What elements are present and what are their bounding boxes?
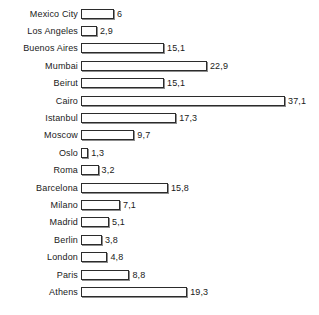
- bar-area: 19,3: [78, 283, 319, 300]
- bar-area: 3,2: [78, 162, 319, 179]
- bar: [81, 287, 187, 297]
- bar: [81, 165, 99, 175]
- category-label: Istanbul: [0, 113, 78, 123]
- bar-value-label: 9,7: [137, 130, 150, 140]
- bar-area: 22,9: [78, 57, 319, 74]
- bar-value-label: 4,8: [110, 252, 123, 262]
- bar: [81, 217, 109, 227]
- bar-area: 15,1: [78, 40, 319, 57]
- bar-area: 9,7: [78, 127, 319, 144]
- bar: [81, 9, 114, 19]
- category-label: Mumbai: [0, 61, 78, 71]
- bar-value-label: 15,1: [167, 43, 185, 53]
- bar-area: 15,8: [78, 179, 319, 196]
- category-label: Mexico City: [0, 9, 78, 19]
- category-label: Cairo: [0, 96, 78, 106]
- bar-row: Mumbai22,9: [0, 57, 319, 74]
- bar-row: Madrid5,1: [0, 214, 319, 231]
- category-label: Athens: [0, 287, 78, 297]
- bar: [81, 113, 176, 123]
- category-label: Los Angeles: [0, 26, 78, 36]
- bar-value-label: 7,1: [123, 200, 136, 210]
- bar: [81, 252, 107, 262]
- bar-row: Moscow9,7: [0, 127, 319, 144]
- bar-value-label: 15,8: [171, 183, 189, 193]
- category-label: Milano: [0, 200, 78, 210]
- bar-row: London4,8: [0, 248, 319, 265]
- bar-row: Berlin3,8: [0, 231, 319, 248]
- bar-area: 3,8: [78, 231, 319, 248]
- category-label: Beirut: [0, 78, 78, 88]
- bar-row: Mexico City6: [0, 5, 319, 22]
- bar: [81, 235, 102, 245]
- bar-value-label: 22,9: [210, 61, 228, 71]
- bar-row: Athens19,3: [0, 283, 319, 300]
- bar: [81, 96, 285, 106]
- category-label: Moscow: [0, 130, 78, 140]
- bar-value-label: 17,3: [179, 113, 197, 123]
- bar-value-label: 37,1: [288, 96, 306, 106]
- bar-area: 17,3: [78, 109, 319, 126]
- bar-row: Oslo1,3: [0, 144, 319, 161]
- bar-area: 37,1: [78, 92, 319, 109]
- bar-area: 4,8: [78, 248, 319, 265]
- bar-value-label: 15,1: [167, 78, 185, 88]
- bar: [81, 148, 88, 158]
- bar-row: Cairo37,1: [0, 92, 319, 109]
- bar: [81, 61, 207, 71]
- bar-value-label: 6: [117, 9, 122, 19]
- bar: [81, 183, 168, 193]
- bar-value-label: 3,8: [105, 235, 118, 245]
- category-label: London: [0, 252, 78, 262]
- bar-area: 1,3: [78, 144, 319, 161]
- bar: [81, 43, 164, 53]
- bar-row: Roma3,2: [0, 162, 319, 179]
- bar-row: Milano7,1: [0, 196, 319, 213]
- bar-row: Istanbul17,3: [0, 109, 319, 126]
- bar-value-label: 8,8: [132, 270, 145, 280]
- bar-area: 5,1: [78, 214, 319, 231]
- bar-value-label: 3,2: [102, 165, 115, 175]
- bar-value-label: 19,3: [190, 287, 208, 297]
- category-label: Oslo: [0, 148, 78, 158]
- bar-area: 7,1: [78, 196, 319, 213]
- category-label: Madrid: [0, 217, 78, 227]
- bar: [81, 270, 129, 280]
- bar-area: 15,1: [78, 75, 319, 92]
- bar-value-label: 5,1: [112, 217, 125, 227]
- bar-value-label: 1,3: [91, 148, 104, 158]
- bar: [81, 200, 120, 210]
- bar-row: Los Angeles2,9: [0, 22, 319, 39]
- bar-row: Beirut15,1: [0, 75, 319, 92]
- bar-chart: Mexico City6Los Angeles2,9Buenos Aires15…: [0, 0, 319, 315]
- category-label: Paris: [0, 270, 78, 280]
- category-label: Barcelona: [0, 183, 78, 193]
- bar: [81, 78, 164, 88]
- bar-row: Paris8,8: [0, 266, 319, 283]
- bar-value-label: 2,9: [100, 26, 113, 36]
- category-label: Berlin: [0, 235, 78, 245]
- bar-row: Buenos Aires15,1: [0, 40, 319, 57]
- bar-area: 8,8: [78, 266, 319, 283]
- bar: [81, 130, 134, 140]
- bar-area: 2,9: [78, 22, 319, 39]
- category-label: Roma: [0, 165, 78, 175]
- bar: [81, 26, 97, 36]
- bar-row: Barcelona15,8: [0, 179, 319, 196]
- bar-chart-rows: Mexico City6Los Angeles2,9Buenos Aires15…: [0, 5, 319, 301]
- category-label: Buenos Aires: [0, 43, 78, 53]
- bar-area: 6: [78, 5, 319, 22]
